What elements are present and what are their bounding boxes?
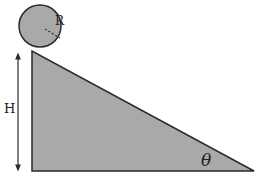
angle-label: θ (201, 150, 211, 170)
incline-triangle (32, 51, 254, 171)
incline-diagram: R H θ (0, 0, 259, 178)
height-label: H (4, 101, 15, 116)
radius-label: R (55, 14, 65, 28)
